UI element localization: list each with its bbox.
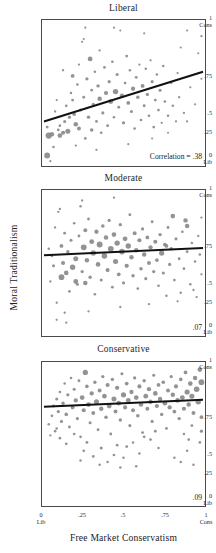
scatter-point <box>197 235 199 237</box>
scatter-point <box>155 404 159 408</box>
scatter-point <box>71 74 75 78</box>
scatter-point <box>74 398 78 402</box>
scatter-point <box>119 223 122 226</box>
scatter-point <box>148 245 152 249</box>
scatter-point <box>81 270 84 273</box>
scatter-point <box>88 275 91 278</box>
scatter-point <box>140 119 143 122</box>
scatter-point <box>84 137 87 140</box>
scatter-point <box>156 73 159 76</box>
scatter-point <box>49 280 51 282</box>
scatter-point <box>89 239 94 244</box>
scatter-point <box>85 385 89 389</box>
scatter-point <box>59 274 65 280</box>
scatter-point <box>83 38 85 40</box>
scatter-point <box>111 378 114 381</box>
scatter-point <box>63 232 66 235</box>
scatter-point <box>142 379 145 382</box>
xtick-075: .75 <box>148 512 182 519</box>
scatter-point <box>81 199 83 201</box>
scatter-point <box>192 464 195 467</box>
ytick-label: .75 <box>204 72 212 79</box>
scatter-point <box>106 383 110 387</box>
scatter-point <box>54 226 56 228</box>
scatter-point <box>119 466 122 469</box>
scatter-point <box>73 433 76 436</box>
scatter-point <box>117 106 120 109</box>
scatter-point <box>78 63 80 65</box>
scatter-point <box>179 378 183 382</box>
scatter-point <box>125 264 129 268</box>
ytick-conservative-0: 0 Lib <box>178 493 216 506</box>
scatter-point <box>82 96 85 99</box>
xtick-label: .75 <box>161 511 169 518</box>
scatter-point <box>170 375 173 378</box>
ytick-conservative-075: .75 <box>178 414 216 421</box>
scatter-point <box>122 281 125 284</box>
scatterplot-figure: Liberal Correlation = .38 1 Cons .75 .5 … <box>0 0 216 553</box>
scatter-point <box>56 99 58 101</box>
ytick-liberal-05: .5 <box>178 110 216 117</box>
scatter-point <box>145 68 148 71</box>
scatter-point <box>126 101 130 105</box>
scatter-point <box>65 129 70 134</box>
scatter-point <box>162 271 165 274</box>
ytick-label: 0 <box>209 492 212 499</box>
ytick-sublabel: Cons <box>178 192 212 199</box>
scatter-point <box>56 319 58 321</box>
scatter-point <box>113 27 115 29</box>
scatter-point <box>94 293 97 296</box>
scatter-point <box>180 461 183 464</box>
xtick-label: 1 <box>204 511 207 518</box>
scatter-point <box>64 413 68 417</box>
scatter-point <box>159 250 164 255</box>
scatter-point <box>124 82 127 85</box>
scatter-point <box>136 287 139 290</box>
xtick-sublabel: Cons <box>189 519 216 526</box>
scatter-point <box>59 124 62 127</box>
xtick-05: .5 <box>106 512 140 519</box>
scatter-point <box>111 396 116 401</box>
scatter-point <box>98 389 102 393</box>
scatter-point <box>168 263 171 266</box>
scatter-point <box>151 420 154 423</box>
scatter-point <box>136 414 140 418</box>
scatter-point <box>157 109 160 112</box>
scatter-point <box>101 111 104 114</box>
scatter-point <box>125 445 128 448</box>
scatter-point <box>68 290 71 293</box>
scatter-point <box>119 418 122 421</box>
scatter-point <box>141 431 144 434</box>
scatter-point <box>182 407 186 411</box>
x-axis-title: Free Market Conservatism <box>41 532 206 543</box>
scatter-point <box>73 388 76 391</box>
scatter-point <box>131 408 135 412</box>
scatter-point <box>79 205 82 208</box>
ytick-sublabel: Lib <box>178 159 212 166</box>
panel-conservative: Conservative .09 1 Cons .75 .5 .25 0 Lib… <box>0 340 216 553</box>
scatter-point <box>83 228 87 232</box>
scatter-point <box>145 407 149 411</box>
scatter-point <box>55 427 58 430</box>
scatter-point <box>61 401 64 404</box>
scatter-point <box>78 379 81 382</box>
scatter-point <box>172 105 175 108</box>
scatter-point <box>71 99 74 102</box>
scatter-point <box>192 289 194 291</box>
scatter-point <box>157 284 160 287</box>
xtick-025: .25 <box>65 512 99 519</box>
xtick-0: 0 Lib <box>24 512 58 525</box>
scatter-point <box>106 124 109 127</box>
scatter-point <box>96 84 99 87</box>
scatter-point <box>101 224 105 228</box>
ytick-conservative-1: 1 Cons <box>178 357 216 370</box>
scatter-point <box>147 261 151 265</box>
scatter-point <box>167 226 170 229</box>
scatter-point <box>183 218 187 222</box>
scatter-point <box>130 110 133 113</box>
ytick-label: 1 <box>209 356 212 363</box>
scatter-point <box>73 256 78 261</box>
scatter-point <box>115 386 119 390</box>
ytick-label: .75 <box>204 413 212 420</box>
scatter-point <box>83 281 87 285</box>
